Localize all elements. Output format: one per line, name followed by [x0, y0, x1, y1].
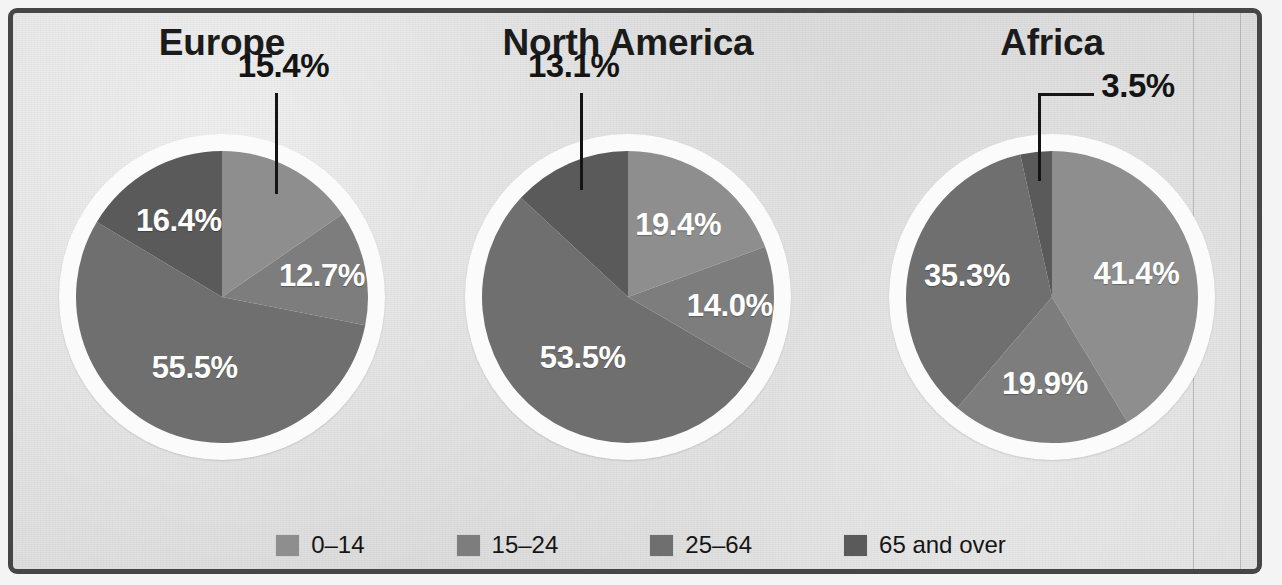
pie-chart-figure: Europe 15.4%12.7%55.5%16.4% North Americ… — [0, 0, 1282, 585]
pie-panel-africa: Africa 41.4%19.9%35.3%3.5% — [852, 22, 1252, 482]
legend-swatch-icon — [457, 535, 480, 556]
pie-slice-label: 19.4% — [635, 207, 721, 243]
pie-north-america: 19.4%14.0%53.5%13.1% — [465, 134, 791, 460]
legend-label: 0–14 — [311, 531, 364, 559]
pie-slices-europe — [76, 151, 368, 443]
legend-label: 15–24 — [492, 531, 559, 559]
pie-slice-label: 53.5% — [540, 340, 626, 376]
pie-title-north-america: North America — [428, 22, 828, 64]
pie-callout-label: 13.1% — [528, 47, 620, 85]
legend-swatch-icon — [276, 535, 299, 556]
pie-panel-europe: Europe 15.4%12.7%55.5%16.4% — [22, 22, 422, 482]
pie-slice-label: 41.4% — [1093, 256, 1179, 292]
pie-slice-label: 19.9% — [1002, 366, 1088, 402]
pie-slice-label: 35.3% — [924, 258, 1010, 294]
legend-swatch-icon — [844, 535, 867, 556]
legend: 0–14 15–24 25–64 65 and over — [0, 531, 1282, 559]
pie-slice-label: 16.4% — [136, 203, 222, 239]
pie-panel-north-america: North America 19.4%14.0%53.5%13.1% — [428, 22, 828, 482]
pie-africa: 41.4%19.9%35.3%3.5% — [889, 134, 1215, 460]
pie-slice-label: 14.0% — [687, 288, 773, 324]
pie-slice-label: 55.5% — [152, 350, 238, 386]
legend-item-15-24[interactable]: 15–24 — [457, 531, 559, 559]
callout-leader-elbow — [1038, 93, 1094, 96]
callout-leader-line — [580, 93, 583, 190]
pie-callout-label: 15.4% — [238, 47, 330, 85]
legend-item-65-and-over[interactable]: 65 and over — [844, 531, 1006, 559]
legend-label: 65 and over — [879, 531, 1006, 559]
pie-title-africa: Africa — [852, 22, 1252, 64]
callout-leader-line — [1038, 93, 1041, 181]
pie-title-europe: Europe — [22, 22, 422, 64]
pie-slice-label: 12.7% — [279, 258, 365, 294]
pie-callout-label: 3.5% — [1101, 67, 1175, 105]
legend-item-25-64[interactable]: 25–64 — [650, 531, 752, 559]
legend-item-0-14[interactable]: 0–14 — [276, 531, 364, 559]
legend-swatch-icon — [650, 535, 673, 556]
pie-europe: 15.4%12.7%55.5%16.4% — [59, 134, 385, 460]
callout-leader-line — [275, 93, 278, 194]
legend-label: 25–64 — [685, 531, 752, 559]
